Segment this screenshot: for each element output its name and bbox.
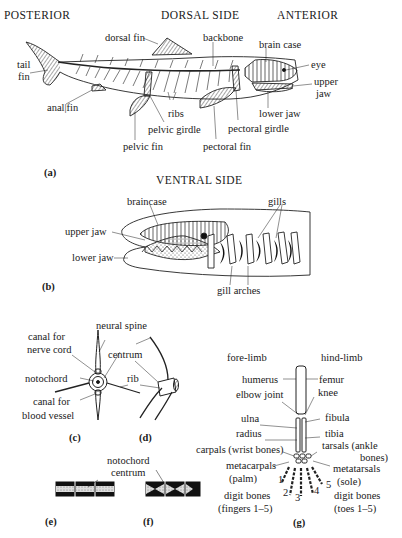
label-metacarpals-line1: metacarpals [226, 460, 276, 471]
label-pectoral-girdle: pectoral girdle [228, 123, 289, 134]
label-digit-fingers-line1: digit bones [224, 490, 270, 501]
label-anal-fin: anal|fin [47, 102, 78, 113]
label-canal-nerve-line2: nerve cord [27, 344, 72, 355]
label-hind-limb: hind-limb [321, 352, 362, 363]
label-ulna: ulna [241, 413, 259, 424]
posterior-heading: POSTERIOR [4, 9, 70, 21]
label-tail-fin-line2: fin [18, 71, 30, 82]
label-tarsals-line2: bones) [360, 452, 388, 463]
label-knee: knee [318, 387, 338, 398]
label-rib: rib [127, 373, 139, 384]
label-digit-toes-line1: digit bones [334, 490, 380, 501]
label-canal-blood-line1: canal for [33, 396, 70, 407]
label-femur: femur [319, 374, 344, 385]
label-digit-5: 5 [326, 479, 331, 490]
label-notochord-c: notochord [25, 373, 68, 384]
label-carpals: carpals (wrist bones) [196, 444, 283, 455]
label-radius: radius [236, 428, 262, 439]
label-upper-jaw-b: upper jaw [65, 226, 107, 237]
label-brain-case: brain case [259, 39, 301, 50]
caption-d: (d) [139, 432, 152, 443]
label-pelvic-girdle: pelvic girdle [148, 124, 201, 135]
label-fibula: fibula [325, 412, 350, 423]
caption-g: (g) [293, 517, 305, 528]
label-tail-fin-line1: tail [17, 59, 30, 70]
caption-a: (a) [44, 167, 56, 178]
label-metatarsals-line1: metatarsals [333, 463, 380, 474]
label-upper-jaw-line1: upper [314, 76, 338, 87]
ventral-side-heading: VENTRAL SIDE [156, 174, 242, 186]
label-digit-toes-line2: (toes 1–5) [334, 503, 376, 514]
label-notochord-ef: notochord [107, 455, 150, 466]
centra-row-e [56, 480, 114, 496]
label-eye: eye [311, 59, 326, 70]
limb-skeleton-drawing [260, 366, 330, 496]
label-canal-nerve-line1: canal for [28, 331, 65, 342]
label-metacarpals-line2: (palm) [229, 473, 257, 484]
label-tarsals-line1: tarsals (ankle [322, 440, 378, 451]
label-lower-jaw-b: lower jaw [72, 252, 114, 263]
label-lower-jaw: lower jaw [259, 108, 301, 119]
caption-e: (e) [45, 516, 57, 527]
label-pectoral-fin: pectoral fin [203, 141, 251, 152]
label-pelvic-fin: pelvic fin [123, 141, 163, 152]
label-digit-3: 3 [295, 492, 300, 503]
label-centrum-ef: centrum [111, 467, 145, 478]
dorsal-side-heading: DORSAL SIDE [161, 9, 239, 21]
centra-row-f [146, 470, 200, 496]
head-ventral-drawing [112, 205, 310, 285]
label-backbone: backbone [203, 32, 243, 43]
label-gills: gills [268, 196, 286, 207]
diagram-drawings [0, 0, 402, 538]
caption-f: (f) [143, 516, 154, 527]
caption-c: (c) [69, 432, 81, 443]
label-digit-1: 1 [278, 474, 283, 485]
label-digit-4: 4 [314, 485, 319, 496]
label-elbow-joint: elbow joint [236, 389, 284, 400]
caption-b: (b) [42, 281, 55, 292]
label-braincase: braincase [127, 196, 167, 207]
label-ribs: ribs [168, 108, 184, 119]
label-dorsal-fin: dorsal fin [105, 32, 145, 43]
label-metatarsals-line2: (sole) [337, 476, 361, 487]
label-canal-blood-line2: blood vessel [22, 410, 74, 421]
label-fore-limb: fore-limb [227, 352, 267, 363]
label-digit-2: 2 [283, 487, 288, 498]
anterior-heading: ANTERIOR [277, 9, 338, 21]
label-gill-arches: gill arches [217, 285, 260, 296]
label-digit-fingers-line2: (fingers 1–5) [218, 503, 273, 514]
label-neural-spine: neural spine [96, 320, 147, 331]
label-upper-jaw-line2: jaw [316, 88, 331, 99]
label-humerus: humerus [242, 374, 278, 385]
label-centrum-c: centrum [108, 349, 142, 360]
label-tibia: tibia [325, 428, 344, 439]
